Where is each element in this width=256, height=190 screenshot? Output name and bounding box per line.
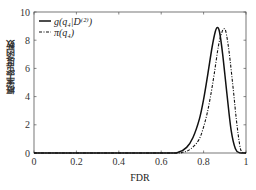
series-line-1 bbox=[34, 29, 246, 153]
y-tick-label: 4 bbox=[25, 91, 30, 102]
y-tick-label: 8 bbox=[25, 35, 30, 46]
series-lines bbox=[34, 28, 246, 153]
x-tick-label: 1 bbox=[244, 156, 249, 167]
x-tick-label: 0.2 bbox=[70, 156, 83, 167]
y-axis-label: 概率密度函数 bbox=[3, 40, 17, 94]
x-axis-label: FDR bbox=[130, 172, 150, 183]
legend-label-1: π(q₄) bbox=[54, 27, 75, 39]
y-tick-label: 2 bbox=[25, 119, 30, 130]
y-tick-label: 10 bbox=[20, 7, 30, 18]
legend: g(q₄|D⁽²⁾)π(q₄) bbox=[39, 16, 93, 39]
y-tick-label: 6 bbox=[25, 63, 30, 74]
y-tick-label: 0 bbox=[25, 148, 30, 159]
x-tick-label: 0.8 bbox=[197, 156, 210, 167]
series-line-0 bbox=[34, 28, 246, 153]
x-tick-label: 0.4 bbox=[113, 156, 126, 167]
chart-canvas: 00.20.40.60.810246810 g(q₄|D⁽²⁾)π(q₄) FD… bbox=[0, 0, 256, 190]
x-tick-label: 0.6 bbox=[155, 156, 168, 167]
x-tick-label: 0 bbox=[32, 156, 37, 167]
